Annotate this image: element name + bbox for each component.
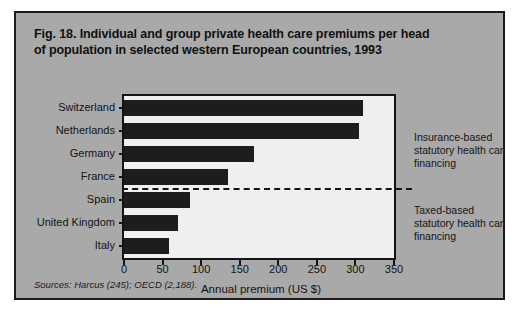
category-divider-line bbox=[122, 188, 412, 190]
y-axis-tick bbox=[119, 130, 124, 132]
bar-italy bbox=[124, 238, 169, 254]
sources-note: Sources: Harcus (245); OECD (2,188). bbox=[34, 279, 197, 290]
x-axis-label-0: 0 bbox=[104, 263, 144, 275]
x-axis-label-150: 150 bbox=[220, 263, 260, 275]
bar-switzerland bbox=[124, 100, 363, 116]
bar-france bbox=[124, 169, 228, 185]
x-axis-title: Annual premium (US $) bbox=[176, 283, 346, 295]
figure-panel: Fig. 18. Individual and group private he… bbox=[14, 11, 505, 300]
bar-united-kingdom bbox=[124, 215, 178, 231]
x-axis-label-350: 350 bbox=[374, 263, 414, 275]
y-axis-tick bbox=[119, 199, 124, 201]
y-axis-label-germany: Germany bbox=[14, 147, 115, 159]
y-axis-label-italy: Italy bbox=[14, 239, 115, 251]
y-axis-tick bbox=[119, 176, 124, 178]
bar-germany bbox=[124, 146, 254, 162]
x-axis-label-100: 100 bbox=[181, 263, 221, 275]
y-axis-label-netherlands: Netherlands bbox=[14, 124, 115, 136]
bar-netherlands bbox=[124, 123, 359, 139]
y-axis-tick bbox=[119, 245, 124, 247]
y-axis-tick bbox=[119, 107, 124, 109]
y-axis-tick bbox=[119, 153, 124, 155]
y-axis-label-spain: Spain bbox=[14, 193, 115, 205]
figure-title: Fig. 18. Individual and group private he… bbox=[34, 26, 484, 58]
x-axis-label-50: 50 bbox=[143, 263, 183, 275]
bar-spain bbox=[124, 192, 190, 208]
y-axis-label-united-kingdom: United Kingdom bbox=[14, 216, 115, 228]
y-axis-tick bbox=[119, 222, 124, 224]
annotation-taxed-based: Taxed-based statutory health care financ… bbox=[414, 204, 505, 243]
plot-area bbox=[122, 94, 396, 260]
y-axis-label-switzerland: Switzerland bbox=[14, 101, 115, 113]
annotation-insurance-based: Insurance-based statutory health care fi… bbox=[414, 131, 505, 170]
x-axis-label-250: 250 bbox=[297, 263, 337, 275]
y-axis-label-france: France bbox=[14, 170, 115, 182]
figure-title-line-1: Fig. 18. Individual and group private he… bbox=[34, 26, 484, 42]
figure-title-line-2: of population in selected western Europe… bbox=[34, 42, 484, 58]
x-axis-label-300: 300 bbox=[335, 263, 375, 275]
x-axis-label-200: 200 bbox=[258, 263, 298, 275]
